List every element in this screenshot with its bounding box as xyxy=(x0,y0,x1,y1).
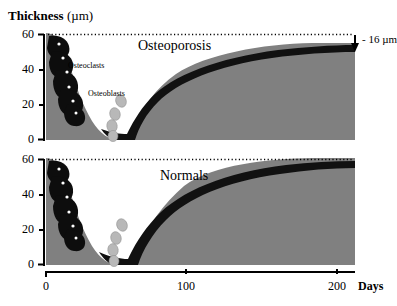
y-tick-bottom-40: 40 xyxy=(6,187,34,202)
y-tick-top-20: 20 xyxy=(6,97,34,112)
deficit-annotation: - 16 µm xyxy=(362,33,397,45)
x-axis-title: Days xyxy=(358,279,383,294)
label-osteoclasts: Osteoclasts xyxy=(68,61,104,70)
panel-title-osteoporosis: Osteoporosis xyxy=(138,38,211,54)
y-tick-bottom-20: 20 xyxy=(6,222,34,237)
y-tick-top-60: 60 xyxy=(6,27,34,42)
y-tick-bottom-60: 60 xyxy=(6,152,34,167)
y-axis-bottom xyxy=(38,159,44,266)
figure-bone-remodelling: Thickness (µm) xyxy=(0,0,397,306)
y-tick-top-40: 40 xyxy=(6,62,34,77)
x-axis xyxy=(45,269,355,277)
panel-title-normals: Normals xyxy=(160,168,208,184)
y-tick-bottom-0: 0 xyxy=(6,257,34,272)
x-tick-0: 0 xyxy=(34,279,58,294)
label-osteoblasts: Osteoblasts xyxy=(88,89,125,98)
y-axis-top xyxy=(38,34,44,141)
x-tick-100: 100 xyxy=(172,279,200,294)
y-tick-top-0: 0 xyxy=(6,132,34,147)
x-tick-200: 200 xyxy=(323,279,351,294)
